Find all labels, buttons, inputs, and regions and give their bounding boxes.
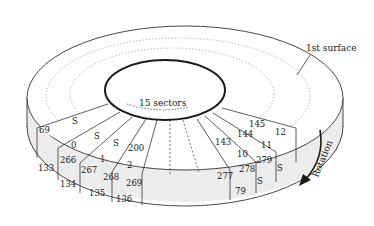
sector-label: 277 [217,171,233,181]
sector-label: S [72,116,78,126]
sector-label: 0 [71,140,76,150]
sector-label: 136 [116,194,132,204]
sector-label: 10 [237,149,248,159]
sectors-label: 15 sectors [139,98,187,108]
disk-diagram: 15 sectors 1st surface Rotation S 69 S 0… [0,0,374,226]
sector-label: 268 [103,172,119,182]
sector-label: 145 [249,119,265,129]
sector-label: 133 [38,163,54,173]
sector-label: S [257,176,263,186]
sector-label: 134 [60,179,76,189]
sector-label: 12 [275,127,286,137]
sector-label: S [94,131,100,141]
sector-label: 11 [261,140,272,150]
disk-hole [105,60,225,120]
sector-label: 266 [60,155,76,165]
sector-label: 144 [237,129,253,139]
sector-label: 69 [39,125,50,135]
sector-label: 135 [89,188,105,198]
sector-label: 278 [239,164,255,174]
sector-label: 143 [215,137,231,147]
sector-label: 269 [126,178,142,188]
sector-label: S [277,163,283,173]
sector-label: 200 [128,143,144,153]
sector-label: 279 [256,155,272,165]
sector-label: 267 [81,165,97,175]
sector-label: 1 [100,154,105,164]
sector-label: 2 [127,160,132,170]
sector-label: 79 [235,186,246,196]
surface-label: 1st surface [306,43,357,53]
sector-label: S [113,138,119,148]
